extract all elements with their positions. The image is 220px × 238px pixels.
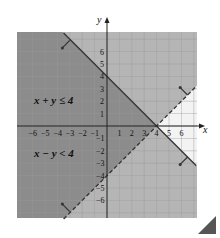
svg-text:−6: −6: [29, 129, 38, 138]
svg-text:−2: −2: [78, 129, 87, 138]
svg-text:6: 6: [100, 48, 104, 57]
svg-text:2: 2: [130, 129, 134, 138]
svg-text:−2: −2: [96, 147, 105, 156]
svg-text:−5: −5: [96, 184, 105, 193]
y-axis-label: y: [96, 14, 102, 25]
inequality-label-2: x − y < 4: [33, 147, 74, 159]
page-corner-decoration: [198, 216, 216, 234]
svg-text:4: 4: [155, 129, 159, 138]
x-axis-label: x: [202, 124, 208, 135]
svg-text:−4: −4: [53, 129, 62, 138]
inequality-label-1: x + y ≤ 4: [33, 94, 74, 106]
shaded-regions: [0, 0, 220, 238]
svg-text:1: 1: [117, 129, 121, 138]
svg-text:−5: −5: [41, 129, 50, 138]
svg-text:3: 3: [142, 129, 146, 138]
svg-text:6: 6: [179, 129, 183, 138]
svg-text:−4: −4: [96, 172, 105, 181]
svg-text:1: 1: [100, 110, 104, 119]
svg-text:5: 5: [167, 129, 171, 138]
svg-text:4: 4: [100, 72, 104, 81]
svg-text:−1: −1: [96, 134, 105, 143]
svg-text:−3: −3: [66, 129, 75, 138]
svg-text:3: 3: [100, 85, 104, 94]
inequality-graph: −6−5−4−3−2−1123456−6−5−4−3−2−1123456 x +…: [0, 0, 220, 238]
svg-text:−3: −3: [96, 159, 105, 168]
svg-text:5: 5: [100, 60, 104, 69]
svg-text:−6: −6: [96, 196, 105, 205]
svg-text:2: 2: [100, 97, 104, 106]
